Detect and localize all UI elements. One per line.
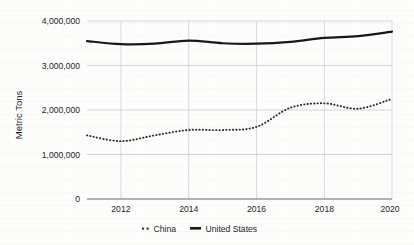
legend-item-united-states[interactable]: United States bbox=[190, 224, 257, 234]
chart-plot-area: Metric Tons 4,000,000 3,000,000 2,000,00… bbox=[0, 0, 414, 245]
y-tick-label-1000000: 1,000,000 bbox=[42, 150, 80, 160]
y-axis-tick-labels: 4,000,000 3,000,000 2,000,000 1,000,000 … bbox=[42, 16, 80, 204]
y-tick-label-4000000: 4,000,000 bbox=[42, 16, 80, 26]
x-tick-label-2018: 2018 bbox=[315, 204, 334, 214]
legend-label-united-states: United States bbox=[206, 224, 258, 234]
y-tick-label-2000000: 2,000,000 bbox=[42, 105, 80, 115]
x-tick-label-2014: 2014 bbox=[179, 204, 198, 214]
x-tick-label-2012: 2012 bbox=[111, 204, 130, 214]
y-tick-label-3000000: 3,000,000 bbox=[42, 61, 80, 71]
x-axis-tick-labels: 2012 2014 2016 2018 2020 bbox=[111, 204, 399, 214]
solid-marker-icon bbox=[190, 227, 201, 230]
chart-legend: China United States bbox=[142, 224, 257, 234]
legend-label-china: China bbox=[154, 224, 177, 234]
horizontal-gridlines bbox=[87, 21, 392, 155]
series-line-united-states bbox=[87, 32, 392, 45]
legend-item-china[interactable]: China bbox=[142, 224, 176, 234]
dotted-marker-icon bbox=[142, 228, 144, 230]
y-tick-label-0: 0 bbox=[75, 194, 80, 204]
dotted-marker-icon bbox=[147, 228, 149, 230]
x-tick-label-2016: 2016 bbox=[247, 204, 266, 214]
y-axis-title: Metric Tons bbox=[13, 91, 24, 140]
series-line-china bbox=[87, 99, 392, 141]
x-tick-label-2020: 2020 bbox=[380, 204, 399, 214]
line-chart-figure: Metric Tons 4,000,000 3,000,000 2,000,00… bbox=[0, 0, 414, 245]
